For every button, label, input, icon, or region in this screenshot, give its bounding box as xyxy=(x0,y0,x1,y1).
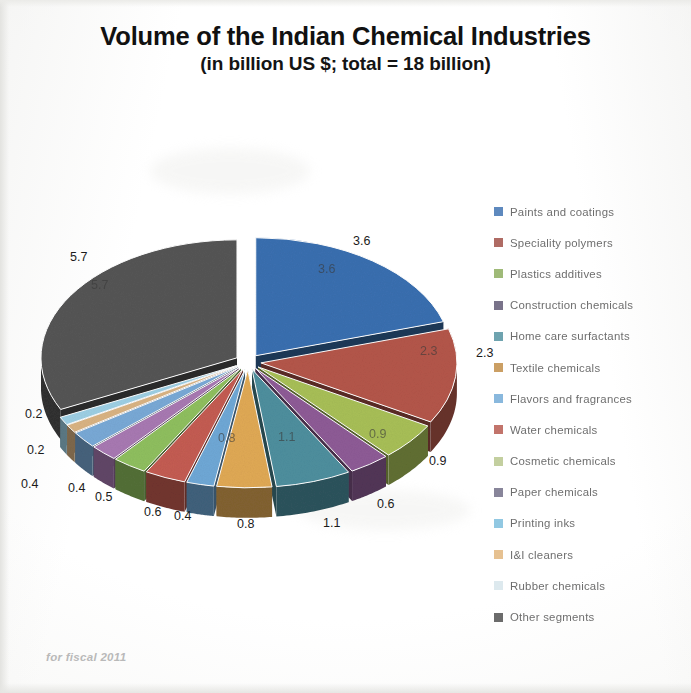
scan-edge-top xyxy=(0,0,691,7)
inner-label-paints-and-coatings: 3.6 xyxy=(318,262,335,276)
legend-swatch-icon xyxy=(494,519,503,528)
legend-item[interactable]: Other segments xyxy=(494,601,686,632)
legend-swatch-icon xyxy=(494,581,503,590)
label-textile-chemicals: 0.8 xyxy=(237,517,254,531)
page-title: Volume of the Indian Chemical Industries xyxy=(0,22,691,51)
title-block: Volume of the Indian Chemical Industries… xyxy=(0,22,691,75)
label-cosmetic-chemicals: 0.5 xyxy=(95,490,112,504)
label-plastics-additives: 0.9 xyxy=(429,454,446,468)
legend-item[interactable]: Water chemicals xyxy=(494,414,686,445)
pie-chart-svg xyxy=(8,150,488,580)
inner-label-other-segments: 5.7 xyxy=(91,278,108,292)
page-subtitle: (in billion US $; total = 18 billion) xyxy=(0,53,691,75)
legend-item[interactable]: Paper chemicals xyxy=(494,477,686,508)
legend-item-label: I&I cleaners xyxy=(510,549,573,561)
chart-legend: Paints and coatingsSpeciality polymersPl… xyxy=(494,196,686,633)
legend-item-label: Paper chemicals xyxy=(510,486,598,498)
legend-item[interactable]: I&I cleaners xyxy=(494,539,686,570)
legend-swatch-icon xyxy=(494,488,503,497)
legend-item[interactable]: Flavors and fragrances xyxy=(494,383,686,414)
label-paper-chemicals: 0.4 xyxy=(68,481,85,495)
label-printing-inks: 0.4 xyxy=(21,477,38,491)
legend-item[interactable]: Printing inks xyxy=(494,508,686,539)
label-paints-and-coatings: 3.6 xyxy=(353,234,370,248)
label-speciality-polymers: 2.3 xyxy=(476,346,493,360)
legend-item[interactable]: Plastics additives xyxy=(494,258,686,289)
legend-item-label: Construction chemicals xyxy=(510,299,633,311)
legend-item[interactable]: Textile chemicals xyxy=(494,352,686,383)
inner-label-home-care-surfactants: 1.1 xyxy=(278,430,295,444)
label-other-segments: 5.7 xyxy=(70,250,87,264)
legend-swatch-icon xyxy=(494,301,503,310)
legend-item-label: Water chemicals xyxy=(510,424,598,436)
legend-item[interactable]: Construction chemicals xyxy=(494,290,686,321)
legend-swatch-icon xyxy=(494,207,503,216)
legend-item[interactable]: Cosmetic chemicals xyxy=(494,446,686,477)
legend-item[interactable]: Rubber chemicals xyxy=(494,570,686,601)
legend-swatch-icon xyxy=(494,613,503,622)
legend-item[interactable]: Paints and coatings xyxy=(494,196,686,227)
inner-label-plastics-additives: 0.9 xyxy=(369,427,386,441)
pie-chart-plot-area: 3.62.30.90.61.10.80.40.60.50.40.40.20.25… xyxy=(8,150,488,580)
scan-edge-bottom xyxy=(0,683,691,693)
legend-swatch-icon xyxy=(494,269,503,278)
legend-item-label: Speciality polymers xyxy=(510,237,613,249)
pie-slice-side xyxy=(217,486,272,518)
label-ii-cleaners: 0.2 xyxy=(27,443,44,457)
label-rubber-chemicals: 0.2 xyxy=(25,407,42,421)
legend-swatch-icon xyxy=(494,425,503,434)
legend-swatch-icon xyxy=(494,332,503,341)
label-home-care-surfactants: 1.1 xyxy=(323,516,340,530)
legend-item-label: Home care surfactants xyxy=(510,330,630,342)
legend-item-label: Paints and coatings xyxy=(510,206,614,218)
legend-item-label: Printing inks xyxy=(510,517,575,529)
legend-swatch-icon xyxy=(494,238,503,247)
legend-item-label: Textile chemicals xyxy=(510,362,600,374)
inner-label-textile-chemicals: 0.8 xyxy=(218,431,235,445)
legend-item-label: Plastics additives xyxy=(510,268,602,280)
legend-item-label: Rubber chemicals xyxy=(510,580,605,592)
legend-item[interactable]: Speciality polymers xyxy=(494,227,686,258)
label-construction-chemicals: 0.6 xyxy=(377,497,394,511)
label-flavors-and-fragrances: 0.4 xyxy=(174,509,191,523)
legend-item-label: Cosmetic chemicals xyxy=(510,455,616,467)
legend-swatch-icon xyxy=(494,550,503,559)
legend-swatch-icon xyxy=(494,394,503,403)
legend-swatch-icon xyxy=(494,457,503,466)
legend-item-label: Other segments xyxy=(510,611,595,623)
legend-swatch-icon xyxy=(494,363,503,372)
chart-page: Volume of the Indian Chemical Industries… xyxy=(0,0,691,693)
label-water-chemicals: 0.6 xyxy=(144,505,161,519)
legend-item-label: Flavors and fragrances xyxy=(510,393,632,405)
legend-item[interactable]: Home care surfactants xyxy=(494,321,686,352)
inner-label-speciality-polymers: 2.3 xyxy=(420,344,437,358)
footnote: for fiscal 2011 xyxy=(46,651,126,663)
